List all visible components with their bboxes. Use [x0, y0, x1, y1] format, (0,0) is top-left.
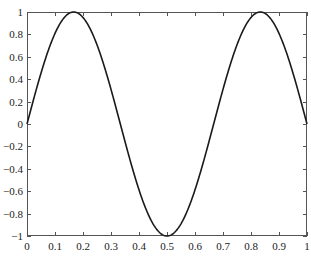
- y-tick-label: 0.8: [9, 28, 23, 40]
- series-line: [27, 12, 307, 236]
- x-tick-label: 0.2: [76, 240, 90, 252]
- y-tick-label: −0.6: [3, 185, 23, 197]
- x-tick-label: 0.7: [216, 240, 230, 252]
- x-tick-label: 0.3: [104, 240, 118, 252]
- y-tick-label: 0.4: [9, 73, 23, 85]
- y-tick-label: 0: [18, 118, 24, 130]
- series-layer: [27, 12, 307, 236]
- line-chart: 00.10.20.30.40.50.60.70.80.91 −1−0.8−0.6…: [0, 0, 311, 263]
- y-tick-label: −0.4: [3, 163, 23, 175]
- x-tick-label: 0: [24, 240, 30, 252]
- y-tick-label: −0.8: [3, 208, 23, 220]
- x-tick-label: 0.8: [244, 240, 258, 252]
- x-tick-label: 0.1: [48, 240, 62, 252]
- x-tick-label: 0.6: [188, 240, 202, 252]
- y-tick-label: −1: [11, 230, 23, 242]
- chart-canvas: 00.10.20.30.40.50.60.70.80.91 −1−0.8−0.6…: [0, 0, 311, 263]
- x-tick-label: 0.5: [160, 240, 174, 252]
- y-tick-label: 1: [18, 6, 24, 18]
- x-tick-label: 0.9: [272, 240, 286, 252]
- x-tick-label: 1: [304, 240, 310, 252]
- plot-area-frame: [28, 13, 307, 236]
- y-tick-label: 0.6: [9, 51, 23, 63]
- x-axis: 00.10.20.30.40.50.60.70.80.91: [24, 12, 310, 252]
- x-tick-label: 0.4: [132, 240, 146, 252]
- plot-border: [28, 13, 307, 236]
- y-tick-label: −0.2: [3, 140, 23, 152]
- y-tick-label: 0.2: [9, 96, 23, 108]
- y-axis: −1−0.8−0.6−0.4−0.200.20.40.60.81: [3, 6, 307, 242]
